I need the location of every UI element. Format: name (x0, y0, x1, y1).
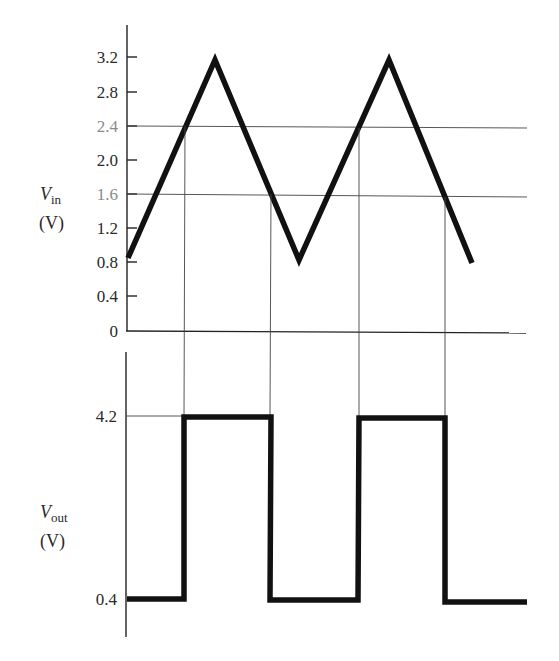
vin-tick-label: 0.8 (97, 253, 118, 272)
vin-tick-label: 3.2 (97, 48, 118, 67)
vin-tick-label: 0.4 (97, 287, 119, 306)
vin-tick-label: 1.2 (97, 219, 118, 238)
vout-tick-label-high: 4.2 (96, 407, 117, 426)
vout-square-wave (127, 417, 527, 602)
transition-guide-lines (184, 126, 445, 418)
vin-tick-label: 0 (110, 322, 119, 341)
vin-axis-unit: (V) (39, 213, 64, 234)
vin-plot: 3.2 2.8 2.4 2.0 1.6 1.2 0.8 0.4 0 Vin (V… (39, 25, 527, 341)
vin-tick-label: 2.8 (97, 83, 118, 102)
vin-triangle-wave (128, 60, 472, 263)
vout-axis-unit: (V) (40, 531, 65, 552)
vout-axis-label: Vout (40, 502, 68, 525)
vin-tick-label-threshold-low: 1.6 (97, 185, 118, 204)
vout-plot: 4.2 0.4 Vout (V) (40, 352, 527, 637)
vin-x-axis (126, 331, 526, 333)
vin-axis-label: Vin (40, 184, 62, 207)
vin-tick-label-threshold-high: 2.4 (97, 117, 119, 136)
vout-tick-label-low: 0.4 (96, 590, 118, 609)
vin-tick-label: 2.0 (97, 151, 118, 170)
vin-ticks (127, 57, 137, 296)
schmitt-trigger-diagram: 3.2 2.8 2.4 2.0 1.6 1.2 0.8 0.4 0 Vin (V… (0, 0, 559, 661)
